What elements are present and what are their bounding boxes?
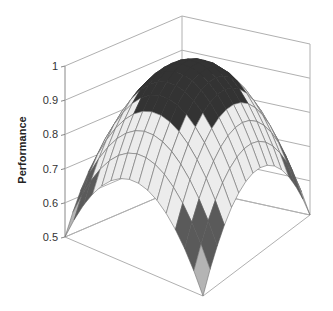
z-axis: 0.50.60.70.80.91 — [43, 60, 65, 243]
z-tick-label: 0.9 — [43, 94, 58, 106]
z-tick-label: 0.5 — [43, 231, 58, 243]
z-tick-label: 1 — [52, 60, 58, 72]
surface-plot — [65, 59, 310, 296]
z-axis-title: Performance — [16, 116, 28, 183]
z-tick — [61, 203, 65, 204]
z-tick — [61, 237, 65, 238]
z-tick — [61, 134, 65, 135]
z-tick-label: 0.7 — [43, 163, 58, 175]
surface-cell — [287, 163, 303, 199]
surface-chart: 0.50.60.70.80.91 Performance — [0, 0, 333, 311]
z-tick — [61, 100, 65, 101]
z-tick-label: 0.8 — [43, 128, 58, 140]
z-tick-label: 0.6 — [43, 197, 58, 209]
gridline — [65, 16, 310, 66]
z-tick — [61, 66, 65, 67]
z-tick — [61, 169, 65, 170]
